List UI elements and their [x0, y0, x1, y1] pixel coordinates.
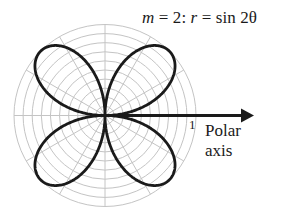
- polar-axis-label: Polar axis: [205, 121, 241, 161]
- polar-rose-diagram: [0, 0, 304, 218]
- r-equation: = sin 2θ: [197, 8, 257, 27]
- equation-title: m = 2: r = sin 2θ: [142, 8, 257, 28]
- m-symbol: m: [142, 8, 154, 27]
- m-value: = 2:: [154, 8, 190, 27]
- radius-tick-label: 1: [189, 117, 196, 133]
- polar-axis-label-line1: Polar: [205, 121, 241, 141]
- arrow-head-icon: [241, 109, 254, 123]
- polar-axis-label-line2: axis: [205, 141, 241, 161]
